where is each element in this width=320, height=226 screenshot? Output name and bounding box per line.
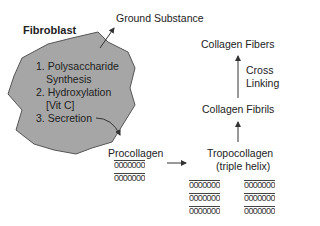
step-1-label: 1. Polysaccharide <box>36 60 119 72</box>
procollagen-label: Procollagen <box>108 147 163 159</box>
tropocollagen-helix-3a: 0000000 <box>189 206 220 216</box>
procollagen-helix-1: 0000000 <box>114 160 145 170</box>
tropocollagen-helix-3b: 0000000 <box>244 206 275 216</box>
tropocollagen-helix-2a: 0000000 <box>189 193 220 203</box>
ground-substance-label: Ground Substance <box>116 12 204 24</box>
tropocollagen-helix-2b: 0000000 <box>244 193 275 203</box>
triple-helix-label: (triple helix) <box>216 160 270 172</box>
collagen-fibrils-label: Collagen Fibrils <box>202 103 274 115</box>
procollagen-helix-2: 0000000 <box>114 173 145 183</box>
fibroblast-title: Fibroblast <box>23 24 76 36</box>
step-2-label: 2. Hydroxylation <box>36 86 111 98</box>
step-3-label: 3. Secretion <box>36 112 92 124</box>
tropocollagen-label: Tropocollagen <box>207 147 273 159</box>
step-2-cont-label: [Vit C] <box>46 99 74 111</box>
cross-linking-label-2: Linking <box>246 77 279 89</box>
tropocollagen-helix-1a: 0000000 <box>189 180 220 190</box>
cross-linking-label-1: Cross <box>246 64 273 76</box>
step-1-cont-label: Synthesis <box>46 73 92 85</box>
collagen-fibers-label: Collagen Fibers <box>201 38 275 50</box>
tropocollagen-helix-1b: 0000000 <box>244 180 275 190</box>
